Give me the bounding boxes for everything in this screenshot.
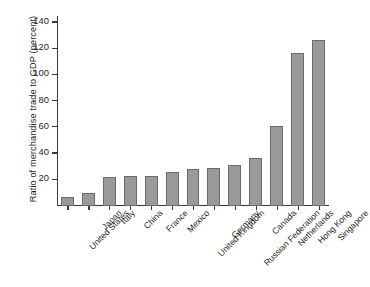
- bar: [166, 172, 179, 206]
- y-tick-label: 80: [39, 94, 49, 105]
- bar: [82, 193, 95, 206]
- bar: [187, 169, 200, 206]
- y-axis-title: Ratio of merchandise trade to GDP (perce…: [28, 4, 38, 214]
- y-tick-label: 20: [39, 172, 49, 183]
- bar: [145, 176, 158, 206]
- y-tick-label: 60: [39, 120, 49, 131]
- bar: [270, 126, 283, 206]
- bar: [61, 197, 74, 206]
- y-tick-label: 140: [33, 15, 49, 26]
- bar: [312, 40, 325, 206]
- y-tick-label: 120: [33, 41, 49, 52]
- y-tick-label: 40: [39, 146, 49, 157]
- bars-layer: [57, 16, 329, 206]
- bar: [228, 165, 241, 206]
- x-axis-label: China: [142, 208, 165, 231]
- x-axis-label: France: [164, 208, 190, 234]
- bar: [207, 168, 220, 206]
- x-axis-label: Mexico: [185, 208, 211, 234]
- y-tick-label: 100: [33, 67, 49, 78]
- x-axis-labels: United StatesJapanItalyChinaFranceMexico…: [57, 208, 329, 287]
- plot-area: 20406080100120140: [57, 16, 329, 206]
- bar: [103, 177, 116, 206]
- bar: [249, 158, 262, 206]
- bar: [124, 176, 137, 206]
- bar: [291, 53, 304, 206]
